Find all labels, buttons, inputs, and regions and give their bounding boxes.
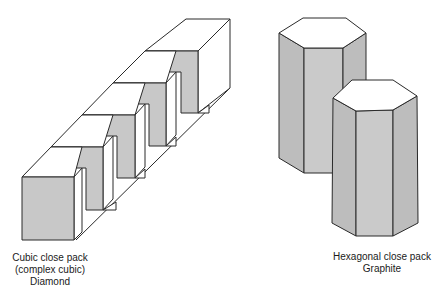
packing-diagram	[0, 0, 445, 287]
cubic-caption-line-2: (complex cubic)	[2, 264, 98, 276]
cubic-close-pack-figure	[22, 19, 230, 240]
hexagonal-caption: Hexagonal close pack Graphite	[322, 251, 442, 275]
hexagonal-caption-line-2: Graphite	[322, 263, 442, 275]
cubic-caption-line-3: Diamond	[2, 276, 98, 287]
hexagonal-caption-line-1: Hexagonal close pack	[322, 251, 442, 263]
cubic-caption: Cubic close pack (complex cubic) Diamond	[2, 252, 98, 287]
cubic-caption-line-1: Cubic close pack	[2, 252, 98, 264]
hexagonal-close-pack-figure	[279, 18, 418, 236]
